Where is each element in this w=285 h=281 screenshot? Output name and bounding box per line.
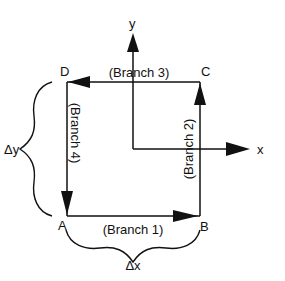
node-label-a: A — [58, 218, 67, 233]
dy-brace — [20, 82, 52, 216]
x-axis-label: x — [257, 142, 264, 157]
branch-3-label: (Branch 3) — [109, 65, 170, 80]
branch-1-label: (Branch 1) — [103, 222, 164, 237]
y-axis-label: y — [129, 16, 136, 31]
node-label-b: B — [200, 219, 209, 234]
arrow-down-icon — [61, 191, 73, 215]
arrow-right-icon — [173, 210, 198, 222]
branch-2-label: (Branch 2) — [181, 119, 196, 180]
dy-label: Δy — [4, 142, 20, 157]
arrow-up-icon — [194, 83, 206, 105]
y-axis — [127, 33, 139, 149]
x-axis-arrow-icon — [226, 142, 250, 156]
loop-diagram: A B C D (Branch 1) (Branch 2) (Branch 3)… — [0, 0, 285, 281]
branch-4-label: (Branch 4) — [68, 103, 83, 164]
y-axis-arrow-icon — [127, 33, 139, 52]
dx-label: Δx — [125, 258, 141, 273]
arrow-left-icon — [68, 76, 90, 88]
branch-1 — [67, 210, 200, 222]
node-label-c: C — [201, 64, 210, 79]
node-label-d: D — [60, 64, 69, 79]
